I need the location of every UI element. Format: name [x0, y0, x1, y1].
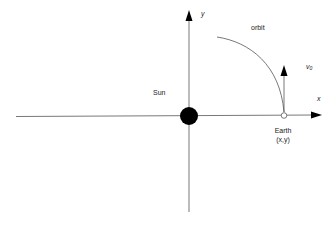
- x-axis-arrowhead-icon: [311, 112, 322, 119]
- earth-icon: [281, 113, 287, 119]
- y-axis-arrowhead-icon: [186, 10, 193, 21]
- velocity-subscript: 0: [310, 65, 313, 71]
- diagram-canvas: [0, 0, 334, 225]
- velocity-label: v0: [306, 63, 312, 71]
- velocity-arrowhead-icon: [281, 65, 288, 76]
- earth-label: Earth: [275, 127, 292, 134]
- x-axis-label: x: [317, 95, 321, 102]
- sun-label: Sun: [153, 89, 165, 96]
- orbit-label: orbit: [251, 24, 265, 31]
- sun-icon: [180, 107, 198, 125]
- velocity-vector: [281, 65, 288, 112]
- earth-coords-label: (x,y): [276, 136, 290, 143]
- orbit-diagram: y orbit v0 x Sun Earth (x,y): [0, 0, 334, 225]
- x-axis: [16, 112, 322, 119]
- y-axis-label: y: [201, 10, 205, 17]
- orbit-arc: [217, 37, 284, 112]
